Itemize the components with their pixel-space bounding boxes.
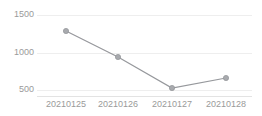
x-tick-label-20210126: 20210126 xyxy=(98,99,138,109)
chart-canvas: 1500 1000 500 20210125 20210126 20210127… xyxy=(0,0,262,116)
data-point-20210127[interactable] xyxy=(169,85,174,90)
y-tick-label-1000: 1000 xyxy=(14,47,34,57)
data-point-20210126[interactable] xyxy=(115,54,120,59)
x-tick-label-20210128: 20210128 xyxy=(206,99,246,109)
x-tick-label-20210127: 20210127 xyxy=(152,99,192,109)
x-tick-label-20210125: 20210125 xyxy=(46,99,86,109)
series-line xyxy=(66,31,226,88)
y-tick-label-500: 500 xyxy=(19,84,34,94)
data-point-20210125[interactable] xyxy=(63,28,68,33)
data-point-20210128[interactable] xyxy=(223,75,228,80)
line-chart: 1500 1000 500 20210125 20210126 20210127… xyxy=(0,0,262,116)
y-tick-label-1500: 1500 xyxy=(14,9,34,19)
